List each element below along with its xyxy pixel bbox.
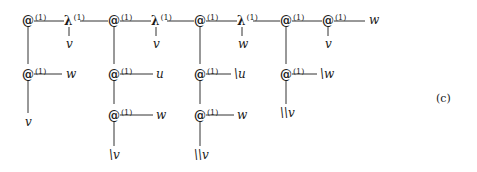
lambda-node: λ(1) (64, 12, 85, 27)
leaf-variable: w (156, 109, 166, 121)
leaf-variable: w (238, 38, 248, 50)
leaf-variable: v (25, 116, 32, 128)
apply-node: @(1) (194, 107, 218, 122)
lambda-node: λ(1) (151, 12, 172, 27)
leaf-variable: \w (320, 68, 334, 80)
apply-node: @(1) (322, 12, 346, 27)
figure-label: (c) (436, 92, 451, 105)
leaf-variable: \v (109, 149, 120, 161)
leaf-variable: v (153, 38, 160, 50)
leaf-variable: \\v (280, 107, 295, 119)
leaf-variable: u (156, 68, 164, 80)
leaf-variable: \\v (194, 149, 209, 161)
apply-node: @(1) (280, 12, 304, 27)
apply-node: @(1) (108, 107, 132, 122)
leaf-variable: w (369, 14, 379, 26)
apply-node: @(1) (280, 66, 304, 81)
leaf-variable: v (325, 38, 332, 50)
leaf-variable: w (237, 109, 247, 121)
apply-node: @(1) (194, 12, 218, 27)
apply-node: @(1) (108, 12, 132, 27)
leaf-variable: w (66, 68, 76, 80)
apply-node: @(1) (22, 12, 46, 27)
leaf-variable: v (66, 38, 73, 50)
lambda-node: λ(1) (237, 12, 258, 27)
apply-node: @(1) (108, 66, 132, 81)
apply-node: @(1) (22, 66, 46, 81)
apply-node: @(1) (194, 66, 218, 81)
leaf-variable: \u (234, 68, 246, 80)
